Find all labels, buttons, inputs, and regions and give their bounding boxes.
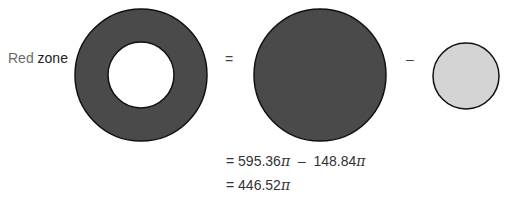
- eq2-pi1: π: [281, 177, 290, 193]
- equals-sign: =: [225, 51, 233, 67]
- ring-shape: [75, 9, 207, 141]
- eq2-term1: 446.52: [238, 177, 281, 193]
- eq1-operator: –: [290, 153, 313, 169]
- large-circle: [254, 9, 386, 141]
- eq1-prefix: =: [226, 153, 238, 169]
- minus-sign: –: [406, 51, 414, 67]
- diagram-shapes: [0, 0, 507, 202]
- eq1-term1: 595.36: [238, 153, 281, 169]
- small-circle: [433, 43, 499, 109]
- equation-line-1: = 595.36π – 148.84π: [226, 153, 366, 169]
- ring-inner-edge: [108, 42, 174, 108]
- eq1-term2: 148.84: [313, 153, 356, 169]
- eq1-pi2: π: [356, 153, 365, 169]
- eq2-prefix: =: [226, 177, 238, 193]
- equation-line-2: = 446.52π: [226, 177, 290, 193]
- eq1-pi1: π: [281, 153, 290, 169]
